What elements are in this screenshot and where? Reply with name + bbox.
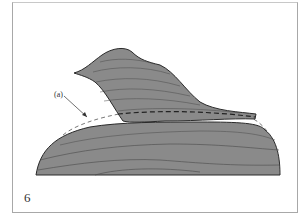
annotation-a: (a) [54, 90, 87, 117]
figure-number: 6 [24, 190, 31, 206]
base-mound [36, 122, 280, 175]
geology-diagram: (a) [0, 0, 304, 222]
annotation-label: (a) [54, 90, 63, 99]
upper-body [74, 48, 256, 122]
